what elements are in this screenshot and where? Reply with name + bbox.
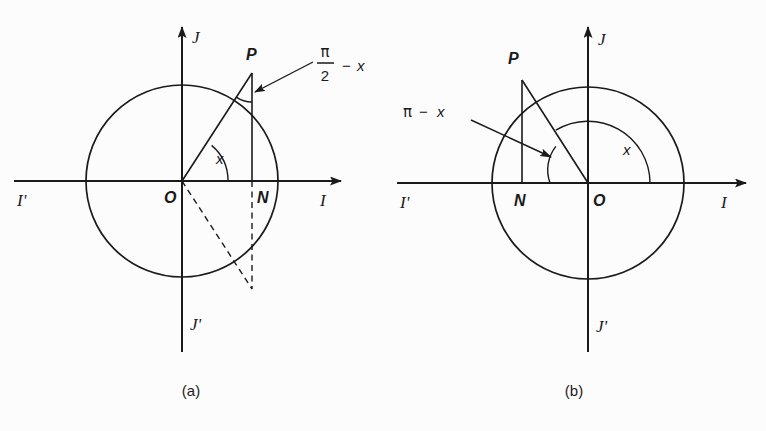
angle-arc-apex — [236, 97, 252, 102]
minus-operator: − — [342, 57, 351, 74]
panel-caption-a: (a) — [182, 382, 200, 399]
axis-label-negative-x: I' — [399, 193, 410, 212]
axis-label-positive-x: I — [319, 191, 327, 210]
point-label-p: P — [246, 46, 257, 63]
radius-op — [522, 80, 588, 183]
fraction-numerator: π — [320, 43, 329, 61]
leader-line-apex — [255, 62, 313, 92]
fraction-denominator: 2 — [321, 67, 329, 84]
point-label-p: P — [508, 50, 519, 67]
panel-b: I' I J J' O P N x π − x (b) — [383, 0, 766, 431]
axis-label-negative-y: J' — [596, 317, 608, 336]
minus-operator: − — [419, 103, 428, 120]
angle-arc-pi-minus-x — [548, 146, 556, 183]
variable-x: x — [436, 103, 445, 120]
dashed-radius-mirror — [182, 181, 252, 289]
point-label-n: N — [514, 192, 526, 209]
point-label-n: N — [257, 189, 269, 206]
axis-label-positive-y: J — [192, 28, 201, 47]
figure-page: I' I J J' O P N x π 2 − x (a) — [0, 0, 766, 431]
panel-a: I' I J J' O P N x π 2 − x (a) — [0, 0, 383, 431]
point-label-origin: O — [164, 189, 177, 206]
axis-label-positive-y: J — [598, 30, 607, 49]
axis-label-negative-x: I' — [16, 191, 27, 210]
point-label-origin: O — [593, 192, 606, 209]
panel-caption-b: (b) — [565, 382, 583, 399]
angle-label-x: x — [215, 150, 224, 167]
angle-label-pi-minus-x: π − x — [403, 103, 445, 121]
angle-label-pi-over-2-minus-x: π 2 − x — [317, 43, 365, 84]
axis-label-positive-x: I — [720, 193, 728, 212]
angle-arc-x — [556, 121, 650, 183]
greek-pi: π — [403, 103, 412, 121]
variable-x: x — [356, 57, 365, 74]
axis-label-negative-y: J' — [190, 315, 202, 334]
angle-label-x: x — [622, 141, 631, 158]
